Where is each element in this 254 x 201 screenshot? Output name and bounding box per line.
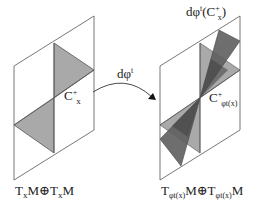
image-cone-label: dφt(C+x): [186, 4, 226, 22]
right-cone-label: C+φt(x): [209, 90, 238, 108]
right-tangent-space: [160, 16, 240, 180]
map-label: dφt: [117, 66, 134, 81]
right-space-label: Tφt(x)M⊕Tφt(x)M: [161, 183, 244, 200]
left-tangent-space: [14, 16, 94, 180]
diagram-canvas: C+x dφt dφt(C+x) C+φt(x) TxM⊕TxM Tφt(x)M…: [0, 0, 254, 201]
left-space-label: TxM⊕TxM: [15, 183, 74, 200]
map-arrow: [93, 83, 156, 100]
left-cone-label: C+x: [64, 88, 81, 106]
map-arrow-curve: [93, 83, 152, 97]
left-cone-lower: [14, 98, 54, 153]
